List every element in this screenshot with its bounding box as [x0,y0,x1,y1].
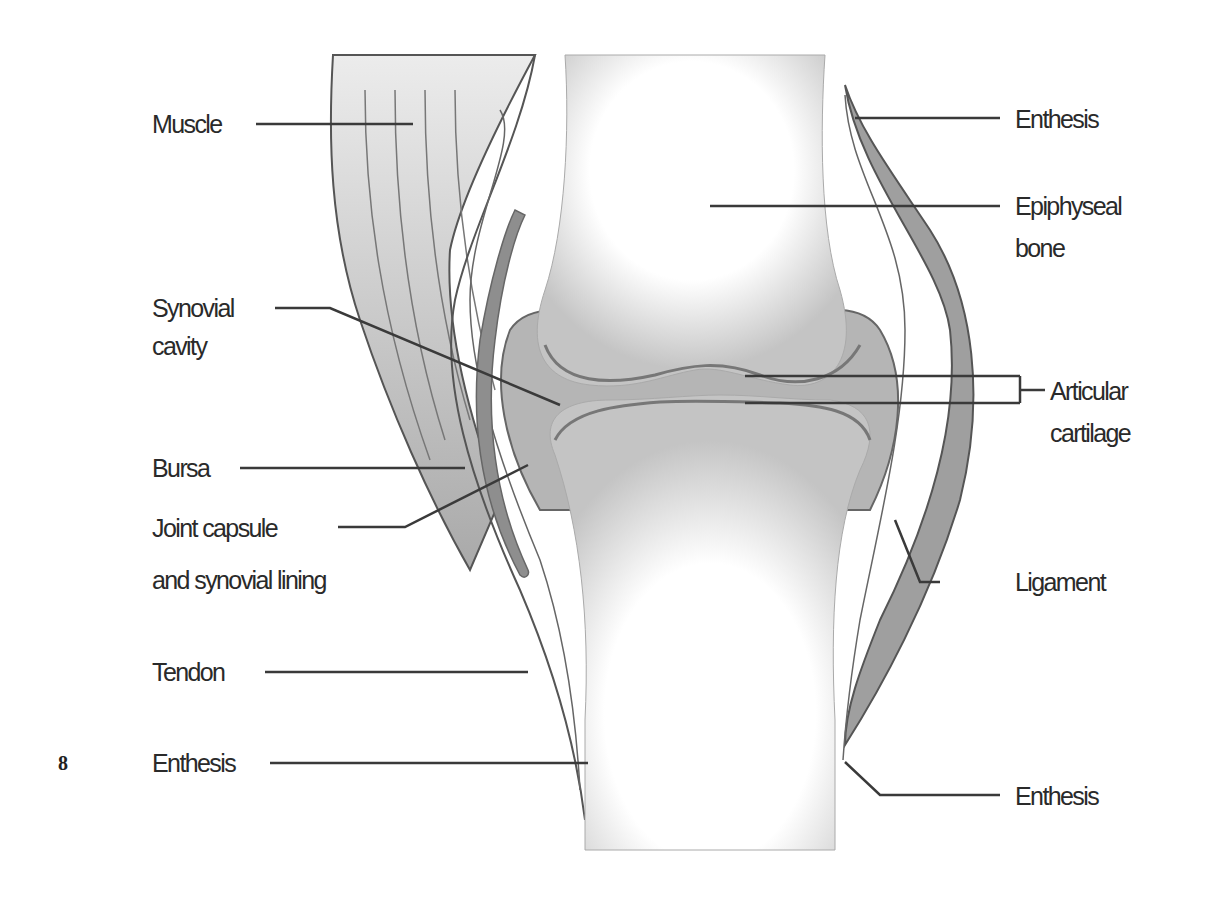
label-epiphyseal-bone-line2: bone [1015,232,1064,265]
tibia-shape [550,395,870,850]
label-synovial-cavity-line1: Synovial [152,292,234,325]
label-articular-cartilage-line2: cartilage [1050,417,1130,450]
label-enthesis-top-right: Enthesis [1015,103,1098,136]
femur-shape [537,55,846,386]
page-number: 8 [58,752,68,775]
label-ligament: Ligament [1015,566,1105,599]
label-enthesis-bottom-right: Enthesis [1015,780,1098,813]
label-epiphyseal-bone-line1: Epiphyseal [1015,190,1121,223]
label-enthesis-bottom-left: Enthesis [152,747,235,780]
label-articular-cartilage-line1: Articular [1050,375,1127,408]
label-bursa: Bursa [152,452,209,485]
label-tendon: Tendon [152,656,224,689]
label-muscle: Muscle [152,108,222,141]
label-joint-capsule-line2: and synovial lining [152,564,326,597]
label-synovial-cavity-line2: cavity [152,330,206,363]
label-joint-capsule-line1: Joint capsule [152,512,277,545]
